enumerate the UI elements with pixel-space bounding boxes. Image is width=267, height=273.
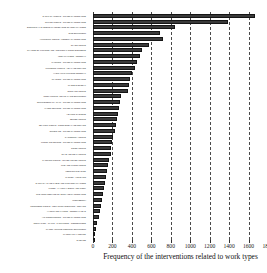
bar-category-label: FENCING CLEANING — [65, 170, 86, 173]
bar-fill — [93, 106, 119, 110]
bar-fill — [93, 221, 97, 225]
bar-category-label: STORAGE WORKS — [67, 89, 86, 92]
bar-fill — [93, 232, 95, 236]
bar-category-label: INSTALLATIONS - RENEWAL — [58, 55, 86, 58]
bar-fill — [93, 48, 142, 52]
x-tick-label: 1000 — [185, 243, 196, 250]
bar-category-label: SUPPLEMENTARY WALL - OTHER MAINTENANCE — [37, 101, 86, 104]
bar-fill — [93, 112, 118, 116]
bar-fill — [93, 123, 116, 127]
bar-category-label: HEATING SYSTEMS — [66, 112, 86, 115]
bar-category-label: PAINTING - OTHER MAINTENANCE — [51, 61, 86, 64]
bar-category-label: MATERIALS HANDLING — [63, 233, 86, 236]
x-tick-label: 800 — [167, 243, 175, 250]
bar-fill — [93, 209, 100, 213]
bar-fill — [93, 94, 121, 98]
bar-fill — [93, 83, 129, 87]
bar-category-label: CONCRETE WORKS - REPAIRING INJECTION - R… — [30, 204, 86, 207]
bar-fill — [93, 89, 128, 93]
x-tick-label: 600 — [147, 243, 155, 250]
bar-category-label: HYDRAULIC FITTINGS RENEWAL — [53, 72, 86, 75]
bar-fill — [93, 204, 101, 208]
bar-fill — [93, 175, 106, 179]
x-tick-label: 0 — [92, 243, 95, 250]
x-tick-label: 1800 — [262, 243, 267, 250]
bar-fill — [93, 77, 130, 81]
bar-fill — [93, 198, 102, 202]
bar-category-label: ELECTRICAL SYSTEMS MAINTENANCE OF INSTAL… — [27, 26, 86, 29]
x-tick-label: 1600 — [243, 243, 254, 250]
x-tick-label: 1200 — [204, 243, 215, 250]
bar-fill — [93, 152, 111, 156]
bar-fill — [93, 14, 255, 18]
bar-fill — [93, 140, 112, 144]
bar-category-label: CARPENTRY WORKS — [65, 135, 86, 138]
chart-plot-area: SANITARY WORKS - OTHER MAINTENANCEOFFICE… — [0, 13, 267, 243]
bar-chart-figure: SANITARY WORKS - OTHER MAINTENANCEOFFICE… — [0, 0, 267, 273]
bar-category-label: FLOOR COVERINGS - OTHER MAINTENANCE — [41, 141, 86, 144]
bar-category-label: OFFICE WORKS - OTHER MAINTENANCE — [45, 20, 86, 23]
bar-fill — [93, 25, 175, 29]
bar-category-label: DOOR WORKS — [71, 147, 86, 150]
bar-category-label: HARDWARE FIXINGS - RENEWAL KEYS — [47, 210, 86, 213]
bar-fill — [93, 192, 103, 196]
bar-category-label: AIR CONDITIONING - OTHER MAINTENANCE — [42, 216, 86, 219]
bar-fill — [93, 31, 160, 35]
bar-category-label: CLEANING SERVICE OF SURFACE MAINTENANCE — [36, 193, 86, 196]
bar-category-label: SEALING WORKS - DOOR BREAKAGE REPAIRS — [39, 124, 86, 127]
bar-category-label: PLASTER - OTHER MAINTENANCE — [52, 78, 86, 81]
bar-fill — [93, 186, 104, 190]
bar-category-label: FLOOR - LAYING LABOUR AND WORK — [48, 187, 86, 190]
bar-category-label: SITE EQUIPMENT — [68, 32, 86, 35]
bar-category-label: SANITARY WARE TABLE AND PIPE INSTALLATIO… — [35, 181, 86, 184]
bar-category-label: SLAB AND SEAT WORKS — [62, 153, 86, 156]
bar-fill — [93, 163, 108, 167]
bar-category-label: CARPET - FINISHING — [65, 176, 86, 179]
x-tick-label: 1400 — [224, 243, 235, 250]
bar-fill — [93, 54, 140, 58]
bar-category-label: ROOF WORKS AND LEAKAGE EQUIPMENT — [44, 95, 87, 98]
bar-category-label: WORKBENCH — [72, 199, 86, 202]
bar-fill — [93, 215, 99, 219]
x-tick-label: 200 — [108, 243, 116, 250]
bar-fill — [93, 146, 111, 150]
bar-fill — [93, 60, 137, 64]
x-axis-title: Frequency of the interventions related t… — [93, 252, 267, 261]
bar-category-label: PLUMBING WORKS - LEAKAGE REPAIRS — [46, 66, 86, 69]
bar-category-label: FALSE CEILINGS - OTHER MAINTENANCE — [44, 107, 86, 110]
bar-fill — [93, 181, 105, 185]
bar-category-label: PAINTING WORKS - OTHER COVER WORKS — [42, 158, 86, 161]
bar-fill — [93, 117, 117, 121]
bar-fill — [93, 100, 120, 104]
bar-fill — [93, 37, 163, 41]
bar-category-label: CHANGE OF FITTINGS AND ADDITIONAL ROOM E… — [27, 49, 86, 52]
bar-category-label: TILE AND FLOOR JOINTS — [61, 164, 86, 167]
bar-fill — [93, 135, 113, 139]
bar-category-label: WATER VOLUME CONTROL EQUIPMENT — [46, 227, 86, 230]
x-tick-label: 400 — [128, 243, 136, 250]
bar-category-label: SANITARY WORKS - OTHER MAINTENANCE — [43, 15, 86, 18]
bar-fill — [93, 20, 228, 24]
bar-fill — [93, 71, 132, 75]
bar-category-label: ALUMINIUM WORKS - JOINERY MAINTENANCE — [39, 38, 86, 41]
bar-category-label: WASTE DISPOSAL — [68, 84, 86, 87]
bar-fill — [93, 129, 115, 133]
bar-fill — [93, 169, 107, 173]
bar-fill — [93, 158, 109, 162]
bar-category-label: INSULATION - WALLS - PARTITIONS - CONNEC… — [33, 222, 86, 225]
bar-fill — [93, 227, 96, 231]
bar-category-label: CUPBOARD - OTHER MAINTENANCE — [49, 130, 86, 133]
bar-category-label: SEWER WORKS — [70, 118, 86, 121]
bar-category-label: GLASS WORKS — [71, 43, 86, 46]
bar-fill — [93, 43, 149, 47]
bar-fill — [93, 66, 135, 70]
